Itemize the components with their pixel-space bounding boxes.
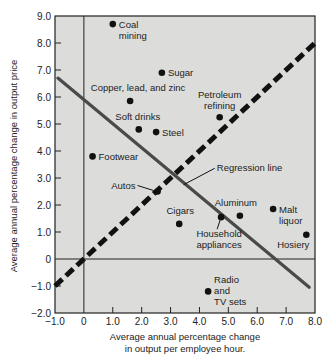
y-tick-label: 0 xyxy=(45,254,51,265)
y-tick-label: 9.0 xyxy=(37,11,51,22)
x-axis-title-line1: Average annual percentage change xyxy=(110,331,260,342)
data-point xyxy=(153,129,160,136)
point-label: Copper, lead, and zinc xyxy=(91,82,186,93)
data-point xyxy=(89,153,96,160)
regression-line-label: Regression line xyxy=(217,162,282,173)
point-label: Aluminum xyxy=(215,197,257,208)
point-label: Footwear xyxy=(99,151,139,162)
data-point xyxy=(270,206,277,213)
data-point xyxy=(135,126,142,133)
point-label: Autos xyxy=(111,180,136,191)
point-label: appliances xyxy=(196,239,242,250)
point-label: Petroleum xyxy=(198,89,241,100)
point-label: TV sets xyxy=(214,296,246,307)
y-tick-label: 5.0 xyxy=(37,119,51,130)
point-label: Sugar xyxy=(168,67,193,78)
y-tick-label: 3.0 xyxy=(37,173,51,184)
point-label: mining xyxy=(119,30,147,41)
point-label: Hosiery xyxy=(277,239,309,250)
point-label: Soft drinks xyxy=(115,111,160,122)
x-tick-label: 1.0 xyxy=(106,316,120,327)
data-point xyxy=(303,231,310,238)
x-tick-label: 8.0 xyxy=(308,316,322,327)
data-point xyxy=(218,214,225,221)
point-label: Coal xyxy=(119,19,139,30)
x-tick-label: 3.0 xyxy=(164,316,178,327)
point-label: and xyxy=(214,285,230,296)
y-tick-label: 7.0 xyxy=(37,65,51,76)
x-tick-label: 0 xyxy=(81,316,87,327)
point-label: liquor xyxy=(279,215,302,226)
point-label: Household xyxy=(196,228,241,239)
point-label: Steel xyxy=(162,127,184,138)
point-label: refining xyxy=(204,100,235,111)
point-label: Radio xyxy=(214,274,239,285)
scatter-chart: −2.0−1.001.02.03.04.05.06.07.08.09.0−1.0… xyxy=(0,0,335,362)
data-point xyxy=(154,188,161,195)
data-point xyxy=(127,98,134,105)
data-point xyxy=(216,114,223,121)
y-tick-label: 8.0 xyxy=(37,38,51,49)
x-axis-title-line2: in output per employee hour. xyxy=(125,343,245,354)
y-tick-label: −1.0 xyxy=(31,281,51,292)
point-label: Malt xyxy=(279,204,297,215)
y-tick-label: 6.0 xyxy=(37,92,51,103)
y-axis-title: Average annual percentage change in outp… xyxy=(8,60,19,273)
data-point xyxy=(176,221,183,228)
data-point xyxy=(159,69,166,76)
x-tick-label: 7.0 xyxy=(279,316,293,327)
x-tick-label: 4.0 xyxy=(192,316,206,327)
x-tick-label: 6.0 xyxy=(250,316,264,327)
x-tick-label: −1.0 xyxy=(45,316,65,327)
y-tick-label: 2.0 xyxy=(37,200,51,211)
data-point xyxy=(237,213,244,220)
data-point xyxy=(205,288,212,295)
point-label: Cigars xyxy=(166,205,194,216)
x-tick-label: 2.0 xyxy=(135,316,149,327)
data-point xyxy=(109,21,116,28)
y-tick-label: 4.0 xyxy=(37,146,51,157)
x-tick-label: 5.0 xyxy=(221,316,235,327)
y-tick-label: 1.0 xyxy=(37,227,51,238)
